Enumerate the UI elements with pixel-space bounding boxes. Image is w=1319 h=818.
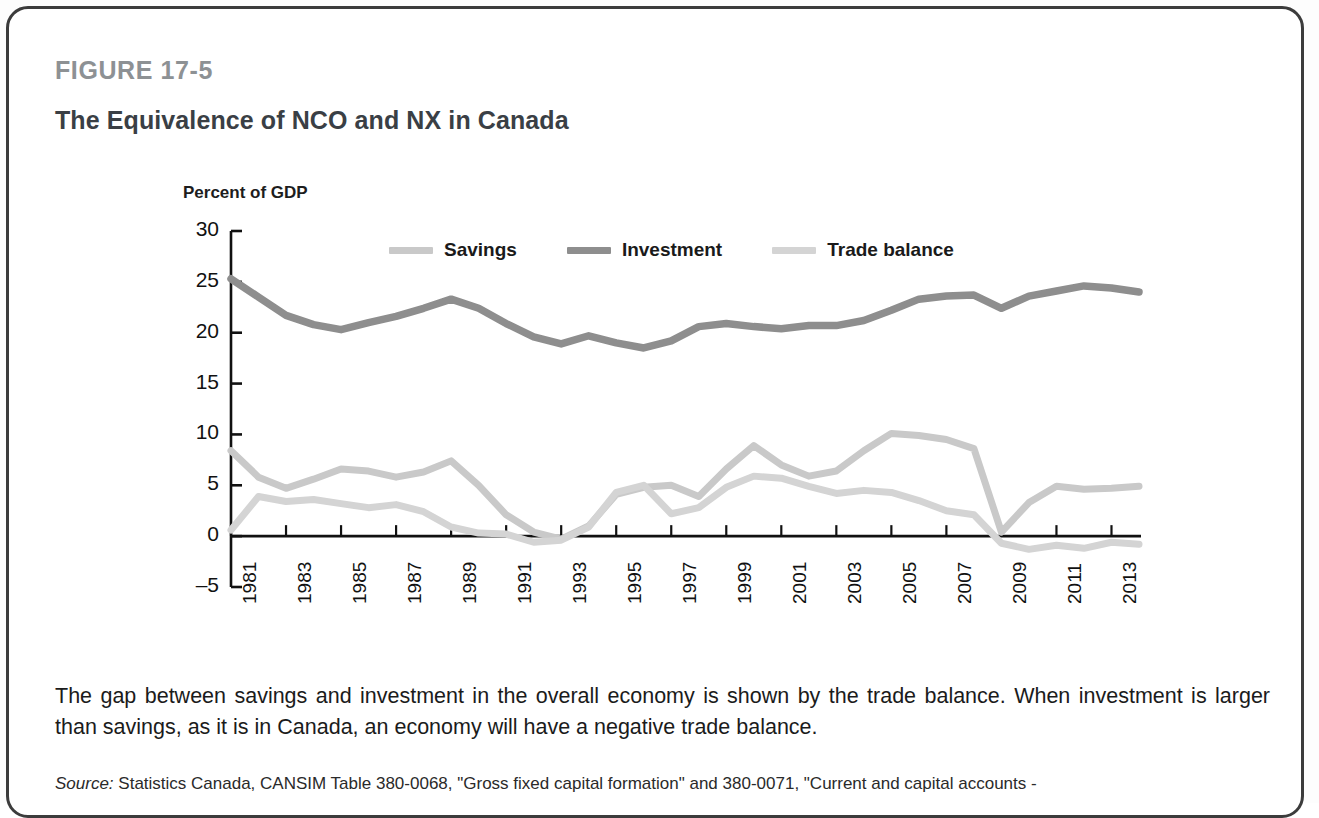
- series-line-savings: [231, 433, 1139, 539]
- figure-caption: The gap between savings and investment i…: [55, 681, 1270, 743]
- y-tick-label: 5: [173, 471, 219, 495]
- figure-source: Source: Statistics Canada, CANSIM Table …: [55, 774, 1285, 794]
- source-text: Statistics Canada, CANSIM Table 380-0068…: [114, 774, 1037, 793]
- x-tick-label: 2001: [789, 562, 811, 604]
- y-tick-label: 0: [173, 522, 219, 546]
- x-tick-label: 1991: [514, 562, 536, 604]
- y-tick-label: 15: [173, 370, 219, 394]
- y-tick-label: 30: [173, 217, 219, 241]
- y-tick-label: –5: [173, 573, 219, 597]
- x-tick-label: 2007: [954, 562, 976, 604]
- x-tick-label: 2011: [1064, 563, 1086, 604]
- series-line-investment: [231, 279, 1139, 348]
- plot-area: –505101520253019811983198519871989199119…: [169, 187, 1169, 667]
- figure-frame: FIGURE 17-5 The Equivalence of NCO and N…: [6, 6, 1304, 818]
- chart: Percent of GDP SavingsInvestmentTrade ba…: [169, 187, 1169, 667]
- x-tick-label: 2003: [844, 562, 866, 604]
- figure-inner: FIGURE 17-5 The Equivalence of NCO and N…: [9, 9, 1301, 815]
- x-tick-label: 2005: [899, 562, 921, 604]
- x-tick-label: 1995: [624, 562, 646, 604]
- figure-number: FIGURE 17-5: [55, 56, 213, 85]
- x-tick-label: 2013: [1119, 562, 1141, 604]
- figure-title: The Equivalence of NCO and NX in Canada: [55, 106, 569, 135]
- x-tick-label: 1999: [734, 562, 756, 604]
- x-tick-label: 1997: [679, 562, 701, 604]
- y-tick-label: 10: [173, 420, 219, 444]
- source-prefix: Source:: [55, 774, 114, 793]
- x-tick-label: 2009: [1009, 562, 1031, 604]
- x-tick-label: 1981: [239, 562, 261, 604]
- x-tick-label: 1985: [349, 562, 371, 604]
- y-tick-label: 20: [173, 319, 219, 343]
- y-tick-label: 25: [173, 268, 219, 292]
- x-tick-label: 1993: [569, 562, 591, 604]
- x-tick-label: 1987: [404, 562, 426, 604]
- x-tick-label: 1983: [294, 562, 316, 604]
- x-tick-label: 1989: [459, 562, 481, 604]
